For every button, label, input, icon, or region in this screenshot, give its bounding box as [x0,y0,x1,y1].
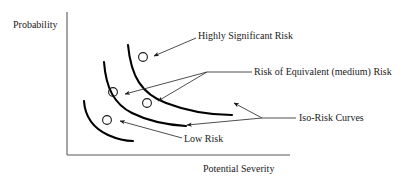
figure-root: Probability Potential Severity Highly Si… [0,0,404,187]
iso-curve-low [84,101,133,141]
leader-low [120,121,182,138]
annotation-iso: Iso-Risk Curves [299,112,364,123]
risk-point-high [139,53,148,62]
risk-point-low [103,116,112,125]
y-axis-label: Probability [13,19,57,30]
annotation-medium: Risk of Equivalent (medium) Risk [254,66,392,78]
leader-iso-branch-a [234,103,262,118]
annotation-high: Highly Significant Risk [198,30,293,41]
risk-diagram: Probability Potential Severity Highly Si… [0,0,404,187]
annotation-low: Low Risk [184,133,223,144]
leader-medium-branch-b [158,72,207,101]
leader-medium-branch-a [125,72,207,94]
leader-iso-branch-b [187,118,262,125]
x-axis-label: Potential Severity [203,163,274,174]
risk-point-medium-b [143,99,152,108]
iso-curve-high [128,45,232,115]
leader-high [154,38,196,56]
